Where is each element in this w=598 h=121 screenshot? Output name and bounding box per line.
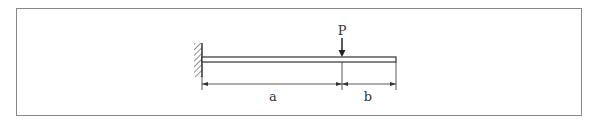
dimension-a bbox=[202, 82, 342, 86]
load-label: P bbox=[338, 23, 347, 38]
dimension-a-label: a bbox=[269, 89, 277, 104]
dimension-b-label: b bbox=[364, 89, 372, 104]
beam bbox=[202, 57, 396, 62]
cantilever-beam-diagram: P a b bbox=[0, 0, 598, 121]
load-arrow-icon bbox=[339, 38, 346, 57]
fixed-support-icon bbox=[194, 43, 202, 77]
dimension-b bbox=[342, 82, 396, 86]
